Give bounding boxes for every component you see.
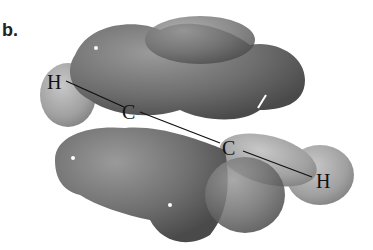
atom-h-left: H bbox=[47, 71, 61, 93]
atom-c-right: C bbox=[222, 137, 235, 159]
atom-c-left: C bbox=[122, 101, 135, 123]
lower-lobe bbox=[55, 127, 228, 242]
atom-h-right: H bbox=[316, 170, 330, 192]
molecular-orbital-diagram: H C C H bbox=[0, 0, 373, 250]
